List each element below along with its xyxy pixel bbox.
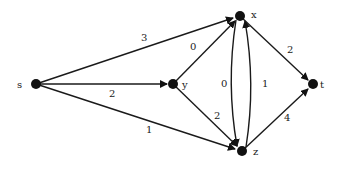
weight-x-z: 0 bbox=[221, 78, 227, 89]
edge-x-z bbox=[231, 20, 237, 146]
node-t bbox=[308, 79, 318, 89]
weight-y-z: 2 bbox=[214, 110, 220, 121]
weight-y-x: 0 bbox=[190, 41, 196, 52]
edge-z-t bbox=[242, 89, 308, 151]
node-label-y: y bbox=[181, 79, 188, 90]
node-z bbox=[237, 146, 247, 156]
node-label-x: x bbox=[251, 9, 257, 20]
node-label-s: s bbox=[17, 79, 22, 90]
node-label-z: z bbox=[253, 146, 258, 157]
edge-s-z bbox=[36, 84, 235, 149]
edge-y-x bbox=[173, 21, 235, 84]
edge-y-z bbox=[173, 84, 237, 146]
weight-x-t: 2 bbox=[287, 44, 293, 55]
node-x bbox=[235, 11, 245, 21]
weight-s-y: 2 bbox=[109, 88, 115, 99]
node-label-t: t bbox=[320, 79, 324, 90]
weight-z-t: 4 bbox=[284, 112, 290, 123]
edge-z-x bbox=[245, 21, 251, 147]
weight-s-x: 3 bbox=[141, 32, 147, 43]
node-s bbox=[31, 79, 41, 89]
weight-s-z: 1 bbox=[146, 124, 152, 135]
edge-s-x bbox=[36, 18, 233, 84]
node-y bbox=[168, 79, 178, 89]
weight-z-x: 1 bbox=[262, 78, 268, 89]
directed-graph: s y x z t 3 2 1 0 2 0 1 2 4 bbox=[0, 0, 340, 169]
